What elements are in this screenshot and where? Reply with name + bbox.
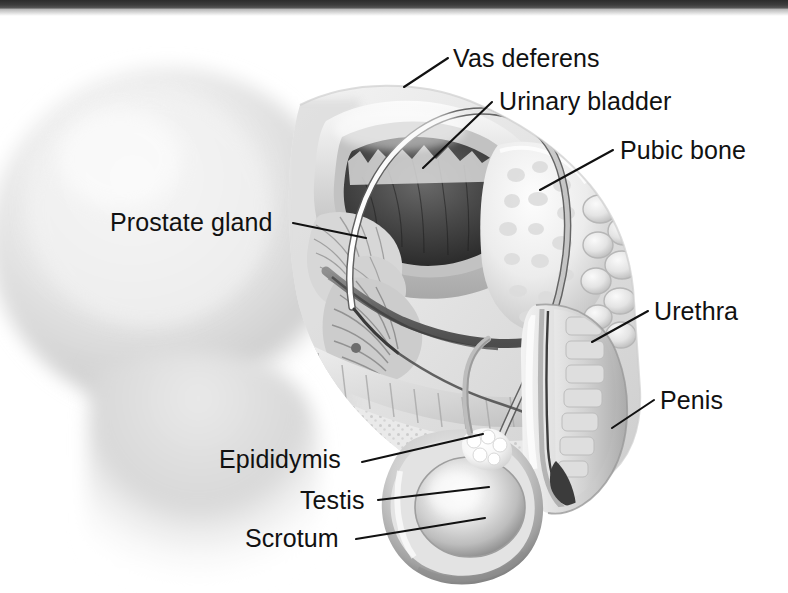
top-dark-bar — [0, 0, 788, 9]
label-vas-deferens: Vas deferens — [453, 45, 600, 72]
label-epididymis: Epididymis — [219, 446, 341, 473]
label-urinary-bladder: Urinary bladder — [499, 88, 671, 115]
label-testis: Testis — [300, 487, 365, 514]
label-penis: Penis — [660, 387, 723, 414]
label-scrotum: Scrotum — [245, 525, 339, 552]
label-prostate-gland: Prostate gland — [110, 209, 273, 236]
label-urethra: Urethra — [654, 298, 738, 325]
vas-deferens-leader — [404, 58, 448, 87]
anatomy-figure-page: Vas deferens Urinary bladder Pubic bone … — [0, 0, 788, 593]
label-pubic-bone: Pubic bone — [620, 137, 746, 164]
